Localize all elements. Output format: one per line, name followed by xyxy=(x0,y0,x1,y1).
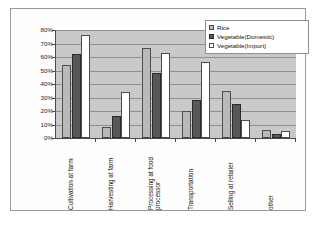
y-axis-tick-label: 0% xyxy=(21,135,53,141)
y-axis-tick-label: 80% xyxy=(21,27,53,33)
bar-0 xyxy=(222,91,231,138)
chart-frame: 80%70%60%50%40%30%20%10%0% RiceVegetable… xyxy=(10,8,306,211)
y-axis-tick-mark xyxy=(52,138,55,139)
legend-item: Vegetable(Domestic) xyxy=(209,32,305,41)
y-axis-tick-label: 20% xyxy=(21,108,53,114)
x-axis-tick-mark xyxy=(175,139,176,142)
bar-1 xyxy=(152,73,161,138)
bar-1 xyxy=(72,54,81,138)
bar-2 xyxy=(161,53,170,138)
y-axis-tick-mark xyxy=(52,111,55,112)
bar-1 xyxy=(112,116,121,138)
y-axis-tick-mark xyxy=(52,71,55,72)
x-axis-category-label: Processing at food processor xyxy=(147,144,161,210)
x-axis-category-label: Cultivation at farm xyxy=(67,144,74,210)
legend-swatch-icon xyxy=(209,25,214,30)
y-axis-tick-label: 40% xyxy=(21,81,53,87)
bar-1 xyxy=(232,104,241,138)
x-axis-tick-mark xyxy=(215,139,216,142)
y-axis-tick-mark xyxy=(52,57,55,58)
bar-2 xyxy=(121,92,130,138)
legend-label: Rice xyxy=(217,24,229,31)
legend-swatch-icon xyxy=(209,34,214,39)
legend-label: Vegetable(Domestic) xyxy=(217,33,274,40)
y-axis-tick-mark xyxy=(52,44,55,45)
bar-0 xyxy=(142,48,151,138)
bar-group xyxy=(96,30,136,138)
y-axis-tick-label: 60% xyxy=(21,54,53,60)
bar-group xyxy=(56,30,96,138)
bar-2 xyxy=(81,35,90,138)
bar-1 xyxy=(272,134,281,138)
y-axis-tick-mark xyxy=(52,30,55,31)
x-axis-category-label: Harvesting at farm xyxy=(107,144,114,210)
x-axis-tick-mark xyxy=(295,139,296,142)
bar-1 xyxy=(192,100,201,138)
bar-group xyxy=(136,30,176,138)
x-axis-tick-mark xyxy=(255,139,256,142)
x-axis-tick-mark xyxy=(135,139,136,142)
bar-0 xyxy=(62,65,71,138)
y-axis-tick-label: 70% xyxy=(21,41,53,47)
y-axis-tick-label: 10% xyxy=(21,122,53,128)
legend-item: Rice xyxy=(209,23,305,32)
x-axis-category-label: Transportation xyxy=(187,144,194,210)
x-axis-tick-mark xyxy=(95,139,96,142)
y-axis-tick-mark xyxy=(52,98,55,99)
bar-0 xyxy=(102,127,111,138)
bar-0 xyxy=(262,130,271,138)
x-axis-category-label: Selling at retailer xyxy=(227,144,234,210)
y-axis-tick-label: 30% xyxy=(21,95,53,101)
y-axis: 80%70%60%50%40%30%20%10%0% xyxy=(21,24,53,144)
bar-0 xyxy=(182,111,191,138)
bar-2 xyxy=(281,131,290,138)
legend-label: Vegetable(Import) xyxy=(217,42,266,49)
bar-2 xyxy=(201,62,210,138)
y-axis-tick-mark xyxy=(52,125,55,126)
legend-swatch-icon xyxy=(209,43,214,48)
legend-item: Vegetable(Import) xyxy=(209,41,305,50)
y-axis-tick-mark xyxy=(52,84,55,85)
x-axis-category-label: other xyxy=(267,144,274,210)
bar-2 xyxy=(241,120,250,138)
chart-legend: RiceVegetable(Domestic)Vegetable(Import) xyxy=(205,20,309,54)
y-axis-tick-label: 50% xyxy=(21,68,53,74)
